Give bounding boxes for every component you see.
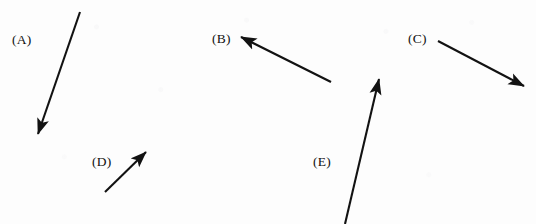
vector-arrow-a	[38, 12, 80, 134]
vector-label-a: (A)	[12, 33, 31, 47]
vector-label-c: (C)	[408, 32, 427, 46]
vector-label-e: (E)	[313, 155, 331, 169]
vector-label-d: (D)	[92, 155, 111, 169]
vector-arrows-canvas	[0, 0, 536, 224]
vector-arrow-c	[438, 41, 524, 86]
vector-label-b: (B)	[212, 32, 231, 46]
vector-arrow-e	[345, 79, 379, 224]
vector-diagram-figure: (A) (B) (C) (D) (E)	[0, 0, 536, 224]
vector-arrow-b	[241, 37, 331, 82]
